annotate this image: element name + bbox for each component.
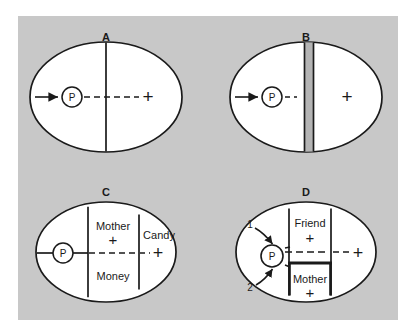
panel-d-region-label-friend: Friend	[294, 217, 325, 229]
panel-c-person-label: P	[60, 248, 67, 259]
panel-d-region-marker-friend: +	[306, 229, 315, 246]
panel-c-region-marker-mother: +	[109, 231, 118, 248]
panel-d-label: D	[302, 186, 310, 198]
panel-a-goal-marker: +	[142, 86, 153, 107]
panel-b-goal-marker: +	[341, 86, 352, 107]
panel-c-region-label-money: Money	[96, 270, 130, 282]
panel-a-person-label: P	[69, 92, 76, 103]
panel-d-force-arrow-1-label: 1	[247, 219, 253, 230]
panel-b-barrier-fill	[305, 42, 314, 151]
panel-b-person-label: P	[269, 92, 276, 103]
panel-d-radiant-dash-upper	[285, 247, 290, 248]
topological-field-diagram: A P + B P	[0, 0, 413, 332]
panel-c-goal-marker: +	[153, 243, 164, 263]
panel-c-label: C	[102, 186, 110, 198]
panel-d-person-label: P	[269, 251, 276, 262]
panel-d-force-arrow-2-label: 2	[247, 282, 253, 293]
panel-d-goal-marker: +	[353, 243, 364, 263]
figure-root: A P + B P	[0, 0, 413, 332]
panel-c-region-label-candy: Candy	[143, 229, 175, 241]
panel-d-region-marker-mother: +	[306, 284, 315, 301]
